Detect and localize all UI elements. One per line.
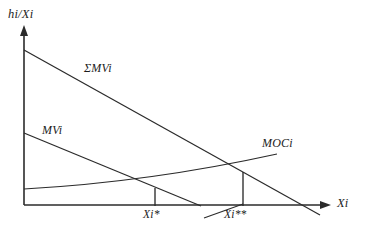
xi-star-star-label: Xi** [224, 209, 247, 221]
moc-curve [24, 154, 277, 189]
xi-star-star-superscript: ** [235, 208, 247, 220]
sum-mv-curve [24, 50, 320, 215]
xi-star-superscript: * [154, 208, 160, 220]
mv-curve [24, 133, 201, 206]
moc-curve-label: MOCi [262, 137, 293, 149]
x-axis-label: Xi [337, 197, 349, 210]
y-axis-label: hi/Xi [8, 8, 33, 21]
xi-star-star-base: Xi [224, 208, 235, 220]
mv-curve-label: MVi [42, 124, 62, 136]
x-axis-arrowhead-icon [320, 201, 331, 209]
diagram-canvas [0, 0, 367, 236]
xi-star-label: Xi* [143, 209, 160, 221]
y-axis-arrowhead-icon [20, 25, 28, 36]
xi-star-base: Xi [143, 208, 154, 220]
sum-mv-curve-label: ΣMVi [84, 62, 112, 74]
economics-diagram: hi/Xi Xi ΣMVi MVi MOCi Xi* Xi** [0, 0, 367, 236]
